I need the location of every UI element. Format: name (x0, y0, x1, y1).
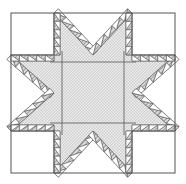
fill-layer (11, 13, 175, 173)
corner-square-bottom-left (11, 131, 54, 173)
corner-square-bottom-right (132, 131, 175, 173)
quilt-star-diagram (0, 0, 186, 184)
corner-square-top-left (11, 13, 54, 55)
quilt-block-svg (0, 0, 186, 184)
corner-square-top-right (132, 13, 175, 55)
